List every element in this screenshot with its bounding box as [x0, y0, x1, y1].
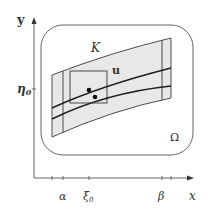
point-marker-upper — [87, 88, 92, 93]
y-axis-label: y — [16, 12, 25, 27]
eta0-label: η0 — [17, 82, 32, 97]
y-axis-arrow-icon — [32, 17, 37, 24]
k-label: K — [90, 41, 101, 55]
xi0-label: ξ0 — [83, 190, 94, 204]
alpha-label: α — [59, 190, 67, 203]
u-label: u — [112, 64, 120, 77]
omega-label: Ω — [170, 131, 179, 144]
x-axis-arrow-icon — [187, 176, 194, 181]
x-axis-label: x — [189, 189, 196, 203]
point-marker-lower — [93, 95, 98, 100]
diagram-canvas: y η0 K u Ω α ξ0 β x — [0, 0, 208, 216]
beta-label: β — [157, 190, 164, 203]
